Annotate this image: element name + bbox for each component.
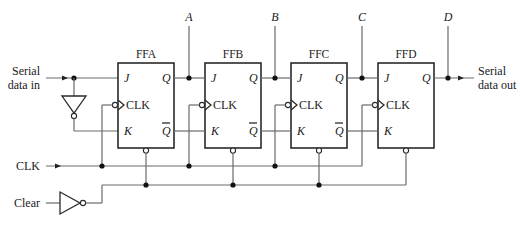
clear-bubbles xyxy=(143,148,408,153)
serial-input-wiring xyxy=(46,75,118,131)
arrow-icon xyxy=(458,76,464,81)
ffb-k: K xyxy=(210,124,220,138)
serial-in-label-1: Serial xyxy=(12,64,41,78)
ffa-q: Q xyxy=(162,71,171,85)
ffd-j: J xyxy=(384,71,390,85)
ffd-k: K xyxy=(383,124,393,138)
serial-out-label-2: data out xyxy=(478,78,517,92)
ffb-clk: CLK xyxy=(213,98,237,112)
tap-d-label: D xyxy=(443,10,453,24)
ffc-qbar: Q xyxy=(335,124,344,138)
ffa-k: K xyxy=(123,124,133,138)
ffb-qbar: Q xyxy=(249,124,258,138)
ffb-q: Q xyxy=(249,71,258,85)
ffc-j: J xyxy=(297,71,303,85)
inverter-bubble xyxy=(71,113,76,118)
clear-label: Clear xyxy=(14,196,40,210)
ffb-name: FFB xyxy=(223,48,244,60)
tap-c-label: C xyxy=(358,10,367,24)
ffa-clk: CLK xyxy=(126,98,150,112)
clear-bus xyxy=(46,153,406,214)
ffa-name: FFA xyxy=(136,48,157,60)
arrow-icon xyxy=(62,76,68,81)
ffa-j: J xyxy=(124,71,130,85)
tap-a-label: A xyxy=(184,10,193,24)
serial-out-label-1: Serial xyxy=(478,64,507,78)
ffd-name: FFD xyxy=(395,48,416,60)
ffd-clk: CLK xyxy=(386,98,410,112)
serial-in-label-2: data in xyxy=(8,78,40,92)
clk-label: CLK xyxy=(16,159,40,173)
inverter-gate xyxy=(62,96,86,113)
ffa-qbar: Q xyxy=(162,124,171,138)
shift-register-diagram: Serial data in CLK Clear Serial data out… xyxy=(0,0,520,229)
ffc-clk: CLK xyxy=(299,98,323,112)
ffc-k: K xyxy=(296,124,306,138)
ffc-q: Q xyxy=(335,71,344,85)
tap-b-label: B xyxy=(271,10,279,24)
ffc-name: FFC xyxy=(309,48,330,60)
arrow-icon xyxy=(55,164,61,169)
clear-inverter-gate xyxy=(60,192,80,214)
ffb-j: J xyxy=(211,71,217,85)
ffd-q: Q xyxy=(422,71,431,85)
circuit-svg: Serial data in CLK Clear Serial data out… xyxy=(0,0,520,229)
